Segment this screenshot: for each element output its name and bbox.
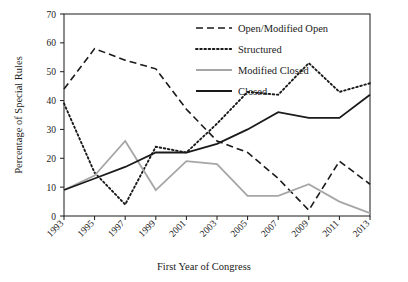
x-tick-group: 2013 [351,216,372,239]
x-tick-group: 2009 [290,216,311,239]
x-tick-label: 2003 [198,218,219,239]
x-tick-label: 2001 [167,218,188,239]
y-tick-group: 70 [47,10,65,20]
y-tick-group: 40 [47,96,65,106]
y-tick-group: 30 [47,125,65,135]
y-tick-group: 20 [47,154,65,164]
x-tick-group: 2003 [198,216,219,239]
y-tick-group: 10 [47,183,65,193]
x-tick-group: 1999 [137,216,158,239]
x-tick-label: 2011 [321,218,341,238]
x-tick-group: 2007 [259,216,280,239]
y-tick-label: 50 [47,67,57,77]
y-tick-label: 70 [47,10,57,20]
x-axis: 1993 1995 1997 1999 2001 2003 [45,216,372,239]
x-tick-label: 2005 [229,218,250,239]
x-tick-label: 2007 [259,218,280,239]
legend-label: Structured [238,44,282,55]
x-tick-group: 1995 [76,216,97,239]
y-tick-label: 60 [47,38,57,48]
x-tick-label: 1995 [76,218,97,239]
line-chart: 0 10 20 30 40 50 [0,0,408,282]
y-tick-label: 20 [47,154,57,164]
x-tick-label: 2013 [351,218,372,239]
legend-label: Closed [238,86,268,97]
y-tick-label: 10 [47,183,57,193]
x-tick-label: 1997 [106,218,127,239]
x-tick-group: 1997 [106,216,127,239]
y-tick-label: 40 [47,96,57,106]
legend-label: Open/Modified Open [238,23,329,34]
x-tick-group: 2001 [167,216,188,239]
legend-label: Modified Closed [238,65,310,76]
x-tick-label: 2009 [290,218,311,239]
chart-container: 0 10 20 30 40 50 [0,0,408,282]
x-tick-group: 2005 [229,216,250,239]
y-tick-group: 50 [47,67,65,77]
x-tick-label: 1999 [137,218,158,239]
y-tick-label: 30 [47,125,57,135]
y-axis: 0 10 20 30 40 50 [47,10,65,222]
x-axis-title: First Year of Congress [157,261,251,272]
y-axis-title: Percentage of Special Rules [13,56,24,174]
x-tick-group: 2011 [321,216,341,239]
x-tick-label: 1993 [45,218,66,239]
y-tick-group: 60 [47,38,65,48]
